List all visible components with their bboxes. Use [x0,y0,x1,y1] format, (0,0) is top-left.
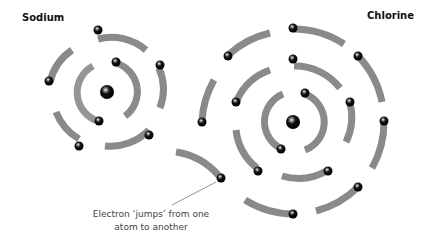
chlorine-shell-1-arc [305,94,324,150]
chlorine-shell-2-arc [236,130,257,168]
chlorine-shell-2-arc [237,70,270,100]
sodium-shell-2-arc [56,112,79,139]
caption-line-2: atom to another [60,221,242,234]
sodium-atom [45,26,165,151]
electron [254,167,263,176]
electron [301,89,310,98]
electron [112,58,121,67]
chlorine-shell-1-arc [264,94,283,148]
electron [95,117,104,126]
electron [156,61,165,70]
electron [324,167,333,176]
electron [217,174,226,183]
chlorine-shell-3-arc [245,200,293,214]
electron [289,55,298,64]
chlorine-nucleus [286,115,300,129]
sodium-shell-2-arc [98,37,146,50]
chlorine-shell-2-arc [294,66,340,88]
chlorine-shell-3-arc [202,80,214,121]
caption-pointer-line [172,182,216,205]
chlorine-shell-2-arc [282,170,328,178]
sodium-shell-2-arc [159,68,163,108]
caption-line-1: Electron ‘jumps’ from one [60,208,242,221]
electron [289,210,298,219]
chlorine-shell-3-arc [293,29,344,44]
electron [277,145,286,154]
chlorine-label: Chlorine [367,10,414,21]
electron [75,142,84,151]
electron [198,118,207,127]
sodium-shell-2-arc [50,50,72,82]
electron [224,52,233,61]
sodium-label: Sodium [22,12,64,23]
chlorine-shell-2-arc [346,103,352,142]
electron [380,117,389,126]
transferring-electron [172,152,226,205]
caption: Electron ‘jumps’ from one atom to anothe… [60,208,242,234]
electron [232,98,241,107]
sodium-shell-2-arc [105,130,149,146]
electron [145,131,154,140]
electron [354,183,363,192]
sodium-shell-1-arc [77,66,98,121]
transfer-arc [176,152,219,176]
electron [94,26,103,35]
chlorine-atom [198,24,389,219]
chlorine-shell-3-arc [372,121,384,168]
electron [45,77,54,86]
sodium-shell-1-arc [116,63,137,116]
chlorine-shell-3-arc [358,56,382,102]
electron [289,24,298,33]
chlorine-shell-3-arc [228,33,270,55]
sodium-nucleus [100,85,114,99]
electron [346,98,355,107]
chlorine-shell-3-arc [316,187,358,211]
electron [354,52,363,61]
